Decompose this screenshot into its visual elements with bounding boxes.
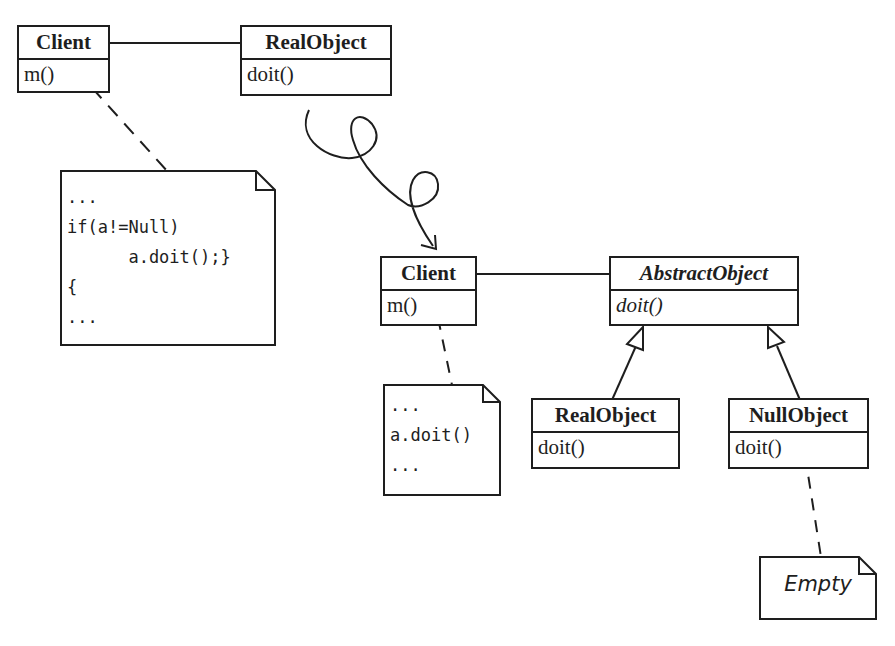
inheritance-triangle-icon [627, 327, 643, 350]
generalization-line-realobject [612, 346, 636, 400]
note-anchor-after [438, 318, 452, 385]
class-client-after[interactable]: Client m() [380, 256, 477, 326]
class-name: AbstractObject [611, 258, 797, 291]
class-name: RealObject [533, 400, 678, 433]
note-after-client: ... a.doit() ... [383, 384, 501, 496]
class-operation: doit() [533, 433, 678, 462]
class-realobject-before[interactable]: RealObject doit() [240, 25, 392, 96]
note-anchor-null [805, 455, 821, 557]
class-operation: doit() [611, 291, 797, 320]
class-name: Client [19, 27, 108, 60]
class-nullobject[interactable]: NullObject doit() [728, 398, 869, 469]
curly-arrowhead-icon [421, 235, 436, 249]
class-operation: doit() [242, 60, 390, 89]
class-operation: m() [382, 291, 475, 320]
note-code-text: ... if(a!=Null) a.doit();} { ... [60, 170, 276, 346]
class-operation: m() [19, 60, 108, 89]
note-empty-text: Empty [759, 556, 877, 620]
note-code-text: ... a.doit() ... [383, 384, 501, 496]
class-realobject-after[interactable]: RealObject doit() [531, 398, 680, 469]
generalization-line-nullobject [777, 346, 800, 400]
curly-transition-arrow [306, 110, 438, 246]
note-before: ... if(a!=Null) a.doit();} { ... [60, 170, 276, 346]
class-operation: doit() [730, 433, 867, 462]
class-abstractobject[interactable]: AbstractObject doit() [609, 256, 799, 326]
note-empty: Empty [759, 556, 877, 620]
inheritance-triangle-icon [768, 327, 784, 348]
class-client-before[interactable]: Client m() [17, 25, 110, 93]
class-name: Client [382, 258, 475, 291]
class-name: RealObject [242, 27, 390, 60]
diagram-canvas: Client m() RealObject doit() ... if(a!=N… [0, 0, 895, 646]
class-name: NullObject [730, 400, 867, 433]
